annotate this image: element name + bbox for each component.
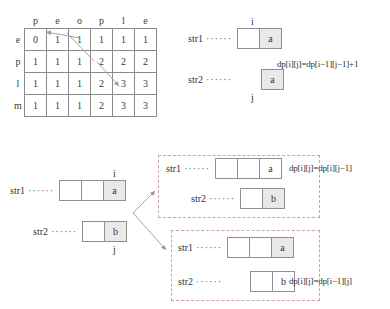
char-cell [237,28,260,49]
str2-label: str2 [33,226,48,237]
ellipsis-dots: ······ [209,193,235,204]
char-cell [81,180,104,201]
dropj-str1-row: str1 ······ a [166,158,282,179]
dp-cell-1-2: 1 [69,51,91,73]
char-cell [82,221,105,242]
ellipsis-dots: ······ [196,276,222,287]
dp-row-header-3: m [12,95,25,117]
dp-col-header-0: p [25,14,47,29]
dropj-str2-row: str2 ······ b [191,188,285,209]
dp-cell-1-5: 2 [135,51,157,73]
index-label-i: i [113,168,116,179]
dp-table: p e o p l e e 0 1 1 1 1 1 p 1 1 1 2 [12,14,157,117]
dp-cell-3-4: 3 [113,95,135,117]
ellipsis-dots: ······ [184,163,210,174]
dp-cell-3-3: 2 [91,95,113,117]
char-cell-highlighted: a [259,28,282,49]
table-row: l 1 1 1 2 3 3 [12,73,157,95]
ellipsis-dots: ······ [28,185,54,196]
mismatch-str1-cells: a [59,180,126,201]
dp-cell-3-2: 1 [69,95,91,117]
mismatch-str1-row: str1 ······ a [10,180,126,201]
index-label-j: j [113,244,116,255]
ellipsis-dots: ······ [206,74,232,85]
table-row: p 1 1 1 2 2 2 [12,51,157,73]
ellipsis-dots: ······ [206,33,232,44]
dp-row-header-0: e [12,29,25,51]
char-cell [59,180,82,201]
table-row: m 1 1 1 2 3 3 [12,95,157,117]
str1-label: str1 [10,185,25,196]
case-match-str2-row: str2 ······ a [188,69,284,90]
dp-table-corner [12,14,25,29]
dp-row-header-1: p [12,51,25,73]
case-match-str1-cells: a [237,28,282,49]
dp-cell-2-5: 3 [135,73,157,95]
str2-label: str2 [188,74,203,85]
dropi-str2-row: str2 ······ b [178,271,295,292]
dp-cell-3-0: 1 [25,95,47,117]
dp-col-header-4: l [113,14,135,29]
dp-cell-0-2: 1 [69,29,91,51]
str2-label: str2 [178,276,193,287]
dp-cell-2-3: 2 [91,73,113,95]
index-label-j: j [251,92,254,103]
dropi-str1-cells: a [227,237,294,258]
table-row: e 0 1 1 1 1 1 [12,29,157,51]
case-match-str2-cells: a [261,69,284,90]
mismatch-str2-cells: b [82,221,127,242]
dropi-str1-row: str1 ······ a [178,237,294,258]
char-cell [249,237,272,258]
dp-cell-0-0: 0 [25,29,47,51]
branch-arrow-up [133,191,155,213]
formula-drop-j: dp[i][j]=dp[i][j−1] [289,163,352,173]
char-cell-highlighted: b [104,221,127,242]
dp-col-header-5: e [135,14,157,29]
ellipsis-dots: ······ [51,226,77,237]
mismatch-str2-row: str2 ······ b [33,221,127,242]
char-cell [250,271,273,292]
dp-cell-0-4: 1 [113,29,135,51]
char-cell-highlighted: a [271,237,294,258]
formula-match: dp[i][j]=dp[i−1][j−1]+1 [277,59,358,69]
dp-cell-3-5: 3 [135,95,157,117]
str1-label: str1 [178,242,193,253]
diagram-canvas: p e o p l e e 0 1 1 1 1 1 p 1 1 1 2 [0,0,390,309]
dp-row-header-2: l [12,73,25,95]
dp-cell-2-1: 1 [47,73,69,95]
dp-cell-0-1: 1 [47,29,69,51]
dp-col-header-2: o [69,14,91,29]
dp-cell-1-0: 1 [25,51,47,73]
case-match-str1-row: str1 ······ a [188,28,282,49]
char-cell-highlighted: a [261,69,284,90]
str2-label: str2 [191,193,206,204]
dp-cell-1-3: 2 [91,51,113,73]
dp-table-container: p e o p l e e 0 1 1 1 1 1 p 1 1 1 2 [12,14,157,117]
dp-col-header-3: p [91,14,113,29]
char-cell [237,158,260,179]
branch-arrow-down [133,213,166,250]
index-label-i: i [251,16,254,27]
char-cell [240,188,263,209]
dp-cell-2-2: 1 [69,73,91,95]
dp-cell-1-4: 2 [113,51,135,73]
char-cell-highlighted: a [103,180,126,201]
dp-cell-2-0: 1 [25,73,47,95]
char-cell: a [259,158,282,179]
dp-table-header-row: p e o p l e [12,14,157,29]
ellipsis-dots: ······ [196,242,222,253]
dp-cell-3-1: 1 [47,95,69,117]
char-cell [215,158,238,179]
dropj-str1-cells: a [215,158,282,179]
dp-cell-0-3: 1 [91,29,113,51]
dp-cell-0-5: 1 [135,29,157,51]
str1-label: str1 [188,33,203,44]
dp-cell-1-1: 1 [47,51,69,73]
dp-cell-2-4: 3 [113,73,135,95]
char-cell [227,237,250,258]
dropj-str2-cells: b [240,188,285,209]
char-cell-highlighted: b [262,188,285,209]
str1-label: str1 [166,163,181,174]
dp-col-header-1: e [47,14,69,29]
formula-drop-i: dp[i][j]=dp[i−1][j] [289,276,352,286]
